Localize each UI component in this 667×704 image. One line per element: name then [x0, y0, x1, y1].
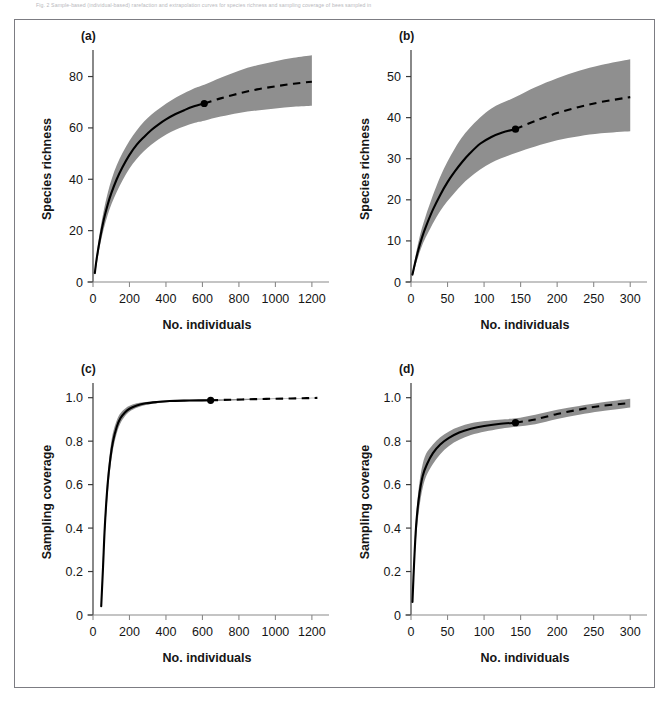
- panel-d-plot: 00.20.40.60.81.0050100150200250300No. in…: [333, 353, 653, 688]
- y-tick-label: 1.0: [384, 391, 401, 405]
- x-axis-title: No. individuals: [481, 651, 570, 665]
- y-tick-label: 0.8: [66, 435, 83, 449]
- x-tick-label: 300: [620, 292, 641, 306]
- x-tick-label: 1000: [261, 625, 289, 639]
- x-tick-label: 400: [156, 292, 177, 306]
- figure-caption-strip: Fig. 2 Sample-based (individual-based) r…: [0, 0, 667, 11]
- x-tick-label: 100: [474, 292, 495, 306]
- x-tick-label: 0: [408, 625, 415, 639]
- panel-d: 00.20.40.60.81.0050100150200250300No. in…: [333, 353, 653, 688]
- y-tick-label: 0.6: [66, 478, 83, 492]
- x-tick-label: 1200: [298, 292, 326, 306]
- observed-reference-point: [207, 397, 214, 404]
- confidence-band: [95, 55, 312, 276]
- confidence-band: [412, 59, 630, 276]
- y-tick-label: 0: [76, 276, 83, 290]
- panel-a-plot: 020406080020040060080010001200No. indivi…: [15, 20, 335, 355]
- y-axis-title: Species richness: [40, 118, 54, 220]
- figure-root: Fig. 2 Sample-based (individual-based) r…: [0, 0, 667, 704]
- y-axis-title: Sampling coverage: [40, 445, 54, 560]
- panel-label: (d): [399, 362, 414, 376]
- observed-curve: [101, 400, 210, 606]
- confidence-band: [412, 399, 630, 605]
- y-tick-label: 10: [387, 234, 401, 248]
- y-tick-label: 0: [76, 609, 83, 623]
- y-tick-label: 0: [394, 609, 401, 623]
- panel-grid: 020406080020040060080010001200No. indivi…: [15, 20, 654, 687]
- observed-reference-point: [512, 126, 519, 133]
- x-axis-title: No. individuals: [481, 318, 570, 332]
- x-tick-label: 250: [583, 625, 604, 639]
- x-tick-label: 150: [510, 625, 531, 639]
- y-tick-label: 0.6: [384, 478, 401, 492]
- observed-curve: [412, 423, 515, 602]
- panel-c: 00.20.40.60.81.0020040060080010001200No.…: [15, 353, 335, 688]
- x-tick-label: 250: [583, 292, 604, 306]
- y-tick-label: 0: [394, 276, 401, 290]
- x-tick-label: 0: [90, 292, 97, 306]
- x-tick-label: 200: [547, 292, 568, 306]
- y-axis-title: Species richness: [358, 118, 372, 220]
- y-tick-label: 20: [69, 224, 83, 238]
- x-axis-title: No. individuals: [163, 651, 252, 665]
- confidence-band: [101, 398, 317, 609]
- x-axis-title: No. individuals: [163, 318, 252, 332]
- observed-reference-point: [512, 419, 519, 426]
- panel-b: 01020304050050100150200250300No. individ…: [333, 20, 653, 355]
- x-tick-label: 50: [441, 625, 455, 639]
- y-tick-label: 0.4: [66, 522, 83, 536]
- panel-label: (a): [81, 29, 96, 43]
- y-tick-label: 0.8: [384, 435, 401, 449]
- y-tick-label: 50: [387, 70, 401, 84]
- y-tick-label: 60: [69, 121, 83, 135]
- x-tick-label: 100: [474, 625, 495, 639]
- x-tick-label: 600: [192, 292, 213, 306]
- y-tick-label: 20: [387, 193, 401, 207]
- x-tick-label: 200: [119, 625, 140, 639]
- x-tick-label: 150: [510, 292, 531, 306]
- x-tick-label: 200: [547, 625, 568, 639]
- x-tick-label: 800: [228, 292, 249, 306]
- panel-b-plot: 01020304050050100150200250300No. individ…: [333, 20, 653, 355]
- x-tick-label: 0: [408, 292, 415, 306]
- x-tick-label: 800: [228, 625, 249, 639]
- x-tick-label: 600: [192, 625, 213, 639]
- x-tick-label: 1000: [261, 292, 289, 306]
- y-tick-label: 80: [69, 70, 83, 84]
- y-tick-label: 0.2: [384, 565, 401, 579]
- x-tick-label: 400: [156, 625, 177, 639]
- x-tick-label: 300: [620, 625, 641, 639]
- y-tick-label: 0.2: [66, 565, 83, 579]
- y-axis-title: Sampling coverage: [358, 445, 372, 560]
- panel-c-plot: 00.20.40.60.81.0020040060080010001200No.…: [15, 353, 335, 688]
- y-tick-label: 1.0: [66, 391, 83, 405]
- x-tick-label: 0: [90, 625, 97, 639]
- figure-frame: 020406080020040060080010001200No. indivi…: [14, 19, 655, 688]
- panel-label: (b): [399, 29, 414, 43]
- y-tick-label: 0.4: [384, 522, 401, 536]
- panel-a: 020406080020040060080010001200No. indivi…: [15, 20, 335, 355]
- y-tick-label: 30: [387, 152, 401, 166]
- x-tick-label: 50: [441, 292, 455, 306]
- observed-reference-point: [201, 100, 208, 107]
- panel-label: (c): [81, 362, 96, 376]
- x-tick-label: 1200: [298, 625, 326, 639]
- y-tick-label: 40: [69, 173, 83, 187]
- x-tick-label: 200: [119, 292, 140, 306]
- y-tick-label: 40: [387, 111, 401, 125]
